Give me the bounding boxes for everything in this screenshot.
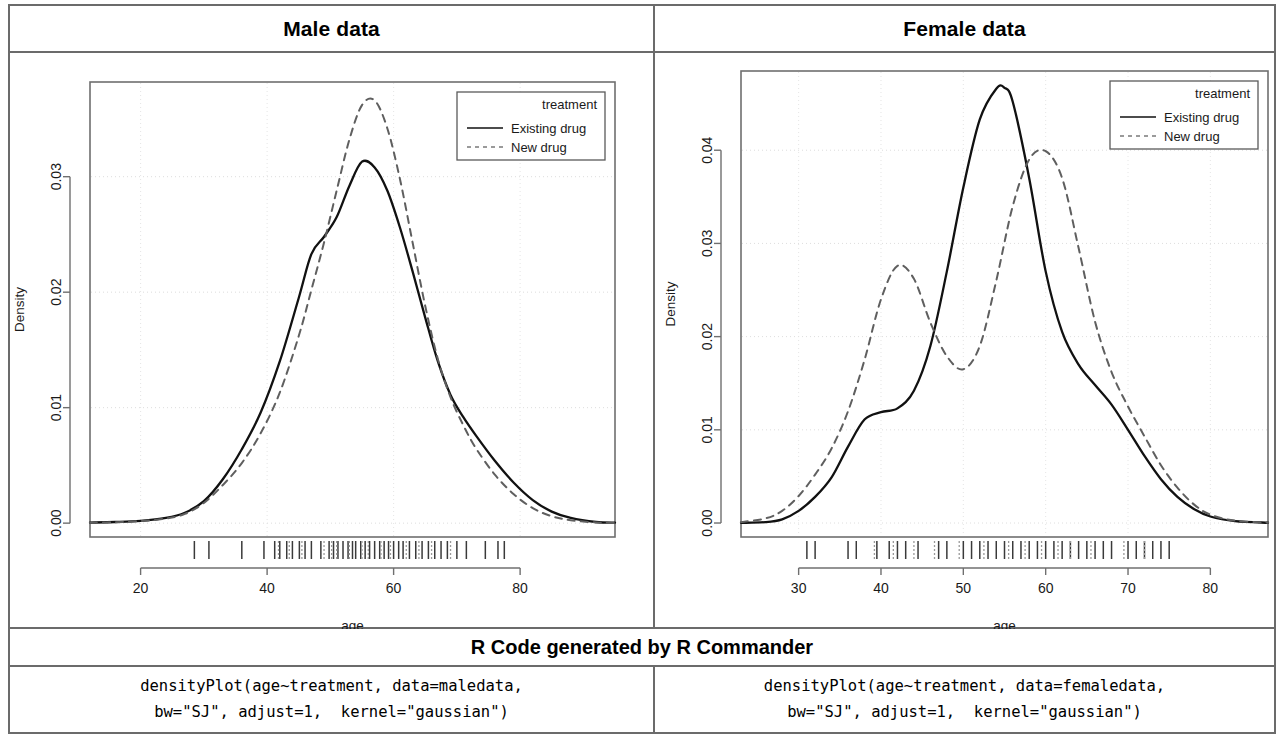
y-tick-label: 0.01 <box>699 416 715 443</box>
y-tick-label: 0.01 <box>48 394 64 421</box>
legend-entry-label: New drug <box>511 140 567 155</box>
panel-title-row: Male data Female data <box>10 6 1274 53</box>
plot-cell-male: 0.000.010.020.03Density20406080agetreatm… <box>10 53 655 627</box>
y-axis-label: Density <box>663 281 678 326</box>
code-male-line-2: bw="SJ", adjust=1, kernel="gaussian") <box>154 700 509 726</box>
legend-entry-label: Existing drug <box>511 121 586 136</box>
x-tick-label: 60 <box>1038 580 1054 596</box>
density-plot-male: 0.000.010.020.03Density20406080agetreatm… <box>10 53 655 629</box>
legend: treatmentExisting drugNew drug <box>1110 81 1258 149</box>
code-female-line-2: bw="SJ", adjust=1, kernel="gaussian") <box>787 700 1142 726</box>
y-axis-label: Density <box>12 287 27 332</box>
code-female-line-1: densityPlot(age~treatment, data=femaleda… <box>764 674 1165 700</box>
legend-entry-label: Existing drug <box>1164 110 1239 125</box>
y-tick-label: 0.03 <box>48 163 64 190</box>
y-tick-label: 0.03 <box>699 230 715 257</box>
code-cell-female: densityPlot(age~treatment, data=femaleda… <box>655 667 1274 732</box>
x-tick-label: 60 <box>386 580 402 596</box>
x-tick-label: 30 <box>791 580 807 596</box>
legend-title: treatment <box>542 97 597 112</box>
x-tick-label: 40 <box>873 580 889 596</box>
x-tick-label: 50 <box>956 580 972 596</box>
x-axis-label: age <box>993 618 1016 629</box>
legend-title: treatment <box>1195 86 1250 101</box>
x-tick-label: 80 <box>512 580 528 596</box>
legend: treatmentExisting drugNew drug <box>457 92 605 160</box>
panel-title-male: Male data <box>10 6 655 51</box>
code-section-header: R Code generated by R Commander <box>10 629 1274 667</box>
figure-table: Male data Female data 0.000.010.020.03De… <box>8 4 1276 734</box>
y-tick-label: 0.00 <box>699 509 715 536</box>
x-tick-label: 80 <box>1203 580 1219 596</box>
code-male-line-1: densityPlot(age~treatment, data=maledata… <box>140 674 523 700</box>
y-tick-label: 0.04 <box>699 136 715 163</box>
x-tick-label: 40 <box>259 580 275 596</box>
legend-entry-label: New drug <box>1164 129 1220 144</box>
plots-row: 0.000.010.020.03Density20406080agetreatm… <box>10 53 1274 629</box>
density-plot-female: 0.000.010.020.030.04Density304050607080a… <box>655 53 1274 629</box>
figure-sheet: Male data Female data 0.000.010.020.03De… <box>0 0 1284 736</box>
x-tick-label: 70 <box>1120 580 1136 596</box>
panel-title-female: Female data <box>655 6 1274 51</box>
x-axis-label: age <box>341 618 364 629</box>
x-tick-label: 20 <box>133 580 149 596</box>
code-row: densityPlot(age~treatment, data=maledata… <box>10 667 1274 732</box>
plot-cell-female: 0.000.010.020.030.04Density304050607080a… <box>655 53 1274 627</box>
y-tick-label: 0.02 <box>48 278 64 305</box>
code-cell-male: densityPlot(age~treatment, data=maledata… <box>10 667 655 732</box>
y-tick-label: 0.00 <box>48 509 64 536</box>
y-tick-label: 0.02 <box>699 323 715 350</box>
